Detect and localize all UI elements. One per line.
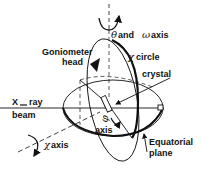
chi-axis-symbol: χ [43,139,51,150]
xray-label-x: X [12,97,18,107]
detector-square-icon [158,105,163,110]
xray-label-ray: ray [29,97,43,107]
crystal-icon [101,95,112,112]
omega-symbol: ω [142,29,150,40]
equatorial-label-line1: Equatorial [149,137,193,147]
goniometer-head-icon [90,58,100,72]
phi-axis-label: axis [95,125,113,135]
diffractometer-diagram: θ and ω axis Goniometer head χ circle cr… [0,0,218,171]
chi-axis-label: axis [51,140,69,150]
xray-beam-label: beam [12,110,36,120]
crystal-label: crystal [142,69,171,79]
chi-circle-symbol: χ [127,51,135,62]
equatorial-pointer-arrow [144,134,147,152]
chi-axis-rotation-arrow-icon [28,135,38,156]
crystal-pointer-arrow [116,78,170,104]
theta-omega-and-label: and [118,30,134,40]
theta-omega-axis-label: axis [151,30,169,40]
goniometer-label-line2: head [62,57,83,67]
goniometer-label-line1: Goniometer [42,47,93,57]
chi-circle-front-arc [112,40,138,138]
chi-circle-label: circle [136,52,160,62]
equatorial-label-line2: plane [149,148,173,158]
theta-symbol: θ [111,29,117,40]
phi-symbol: φ [98,114,110,123]
